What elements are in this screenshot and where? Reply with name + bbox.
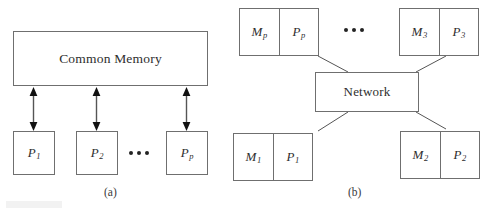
processor-cell-bottom-left: P1: [274, 134, 313, 180]
memory-label-top-right: M3: [412, 24, 427, 40]
memory-label-top-left: Mp: [252, 24, 267, 40]
processor-label-bottom-left: P1: [286, 149, 299, 165]
ellipsis-panel-b: [344, 28, 364, 32]
memory-label-bottom-right: M2: [413, 147, 428, 163]
scan-artifact: [6, 201, 62, 208]
memory-cell-top-left: Mp: [240, 9, 280, 55]
node-bottom-left: M1 P1: [233, 133, 313, 181]
processor-cell-top-left: Pp: [280, 9, 319, 55]
memory-cell-top-right: M3: [400, 9, 440, 55]
figure-root: Common Memory P1 P2 Pp (: [0, 0, 495, 211]
memory-cell-bottom-right: M2: [401, 132, 441, 178]
memory-label-bottom-left: M1: [246, 149, 261, 165]
processor-label-top-left: Pp: [292, 24, 305, 40]
node-top-right: M3 P3: [399, 8, 479, 56]
caption-panel-b: (b): [348, 186, 361, 198]
node-top-left: Mp Pp: [239, 8, 319, 56]
network-box: Network: [315, 72, 419, 112]
network-label: Network: [344, 84, 391, 100]
node-bottom-right: M2 P2: [400, 131, 480, 179]
processor-cell-bottom-right: P2: [441, 132, 480, 178]
processor-label-bottom-right: P2: [453, 147, 466, 163]
processor-cell-top-right: P3: [440, 9, 479, 55]
memory-cell-bottom-left: M1: [234, 134, 274, 180]
processor-label-top-right: P3: [452, 24, 465, 40]
